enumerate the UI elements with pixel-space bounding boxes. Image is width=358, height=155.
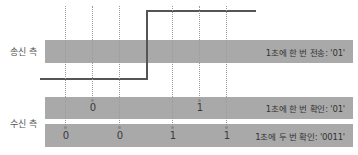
sample-line-6 bbox=[226, 6, 227, 127]
sample-line-3 bbox=[119, 6, 120, 127]
sample-dot bbox=[64, 126, 67, 129]
sample-line-4 bbox=[172, 6, 173, 127]
receiver-bar-twice-text: 1초에 두 번 확인: '0011' bbox=[255, 130, 345, 142]
sample-dot bbox=[171, 126, 174, 129]
signal-low-line bbox=[40, 78, 148, 80]
sample-value: 1 bbox=[170, 130, 176, 141]
receiver-bar-once-text: 1초에 한 번 확인: '01' bbox=[266, 102, 345, 114]
sample-dot bbox=[118, 126, 121, 129]
sender-side-label: 송신 측 bbox=[10, 45, 37, 58]
signal-rising-edge bbox=[146, 10, 148, 80]
sample-dot bbox=[225, 126, 228, 129]
sample-line-2 bbox=[92, 6, 93, 100]
sample-value: 1 bbox=[224, 130, 230, 141]
sample-value: 0 bbox=[90, 102, 96, 113]
sender-bar-text: 1초에 한 번 전송: '01' bbox=[266, 46, 345, 58]
sample-line-5 bbox=[199, 6, 200, 100]
signal-high-line bbox=[146, 10, 256, 12]
receiver-bar-twice: 1초에 두 번 확인: '0011' bbox=[45, 124, 353, 147]
sample-value: 0 bbox=[63, 130, 69, 141]
sample-line-1 bbox=[65, 6, 66, 127]
sample-value: 1 bbox=[197, 102, 203, 113]
sample-value: 0 bbox=[117, 130, 123, 141]
receiver-side-label: 수신 측 bbox=[10, 117, 37, 130]
